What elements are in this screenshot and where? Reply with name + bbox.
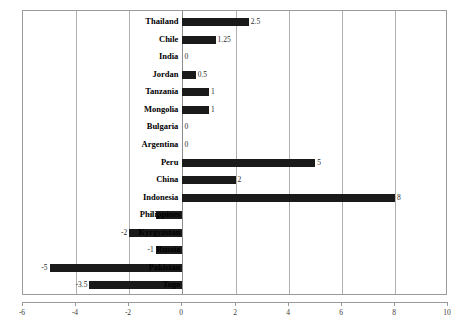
x-tick — [181, 302, 182, 306]
bar-chart: Thailand2.5Chile1.25India0Jordan0.5Tanza… — [0, 0, 465, 325]
value-label: 0 — [184, 120, 188, 134]
value-label: -1 — [138, 243, 154, 257]
value-label: -3.5 — [71, 278, 87, 292]
bar-row: Argentina0 — [23, 136, 446, 154]
bar-row: Togo-3.5 — [23, 276, 446, 294]
bar — [182, 106, 209, 114]
bar-row: Mongolia1 — [23, 101, 446, 119]
x-tick — [341, 302, 342, 306]
category-label: India — [159, 49, 178, 64]
bar-row: Jordan0.5 — [23, 66, 446, 84]
category-label: Bulgaria — [147, 119, 179, 134]
bar — [182, 88, 209, 96]
bar — [182, 36, 215, 44]
bar — [182, 159, 315, 167]
bar-row: China2 — [23, 171, 446, 189]
category-label: China — [156, 172, 178, 187]
bar — [182, 176, 235, 184]
category-label: Indonesia — [143, 190, 178, 205]
bar-row: Pakistan-5 — [23, 259, 446, 277]
value-label: 2.5 — [251, 15, 260, 29]
bar-row: Bulgaria0 — [23, 118, 446, 136]
category-label: Togo — [134, 277, 180, 292]
bar — [182, 71, 195, 79]
value-label: 1 — [211, 103, 215, 117]
x-tick — [447, 302, 448, 306]
x-tick — [22, 302, 23, 306]
category-label: Chile — [159, 32, 178, 47]
bar-row: Tanzania1 — [23, 83, 446, 101]
x-axis-ticks: -6-4-20246810 — [22, 302, 447, 322]
category-label: Tanzania — [145, 84, 178, 99]
bar-row: Chile1.25 — [23, 31, 446, 49]
bar-row: Peru5 — [23, 154, 446, 172]
category-label: Peru — [161, 155, 178, 170]
category-label: Kyrgyzstan — [134, 225, 180, 240]
category-label: Thailand — [145, 14, 178, 29]
value-label: -5 — [32, 261, 48, 275]
plot-area: Thailand2.5Chile1.25India0Jordan0.5Tanza… — [22, 10, 447, 295]
x-tick-label: -2 — [125, 308, 131, 317]
x-tick-label: 6 — [339, 308, 343, 317]
x-tick — [288, 302, 289, 306]
x-tick — [394, 302, 395, 306]
value-label: 8 — [397, 191, 401, 205]
category-label: Jordan — [152, 67, 178, 82]
x-tick — [235, 302, 236, 306]
value-label: 1.25 — [218, 33, 231, 47]
x-tick-label: 8 — [392, 308, 396, 317]
value-label: -1 — [138, 208, 154, 222]
bar-row: India0 — [23, 48, 446, 66]
bar-row: Thailand2.5 — [23, 13, 446, 31]
bar-rows: Thailand2.5Chile1.25India0Jordan0.5Tanza… — [23, 11, 446, 294]
x-tick-label: 4 — [286, 308, 290, 317]
bar-row: Russia-1 — [23, 241, 446, 259]
x-tick — [75, 302, 76, 306]
bar-row: Indonesia8 — [23, 189, 446, 207]
value-label: 0 — [184, 50, 188, 64]
x-tick — [128, 302, 129, 306]
x-tick-label: 0 — [179, 308, 183, 317]
bar-row: Philippines-1 — [23, 206, 446, 224]
x-tick-label: -6 — [19, 308, 25, 317]
value-label: 5 — [317, 156, 321, 170]
category-label: Argentina — [142, 137, 179, 152]
bar — [182, 18, 248, 26]
x-tick-label: -4 — [72, 308, 78, 317]
value-label: -2 — [111, 226, 127, 240]
value-label: 1 — [211, 85, 215, 99]
bar — [182, 194, 395, 202]
value-label: 2 — [238, 173, 242, 187]
x-tick-label: 2 — [233, 308, 237, 317]
value-label: 0.5 — [198, 68, 207, 82]
value-label: 0 — [184, 138, 188, 152]
bar-row: Kyrgyzstan-2 — [23, 224, 446, 242]
category-label: Pakistan — [134, 260, 180, 275]
x-tick-label: 10 — [443, 308, 451, 317]
category-label: Mongolia — [144, 102, 178, 117]
